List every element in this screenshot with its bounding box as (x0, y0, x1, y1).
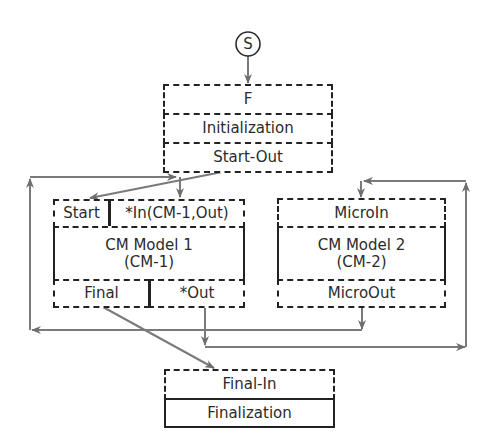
finalization-label: Finalization (207, 405, 292, 422)
cm1-box: Start *In(CM-1,Out) CM Model 1 (CM-1) Fi… (53, 199, 245, 308)
flow-diagram: S F Initialization Start-Out Start *In(C… (0, 0, 497, 448)
final-in-port: Final-In (164, 369, 335, 400)
init-row-f: F (163, 84, 333, 115)
cm2-title-line1: CM Model 2 (318, 237, 406, 254)
cm2-microin-port: MicroIn (277, 198, 446, 228)
init-row-start-out-label: Start-Out (213, 149, 283, 166)
cm1-final-port: Final (53, 279, 150, 308)
start-node-label: S (243, 35, 253, 53)
cm1-out-port: *Out (148, 279, 245, 308)
cm2-box: MicroIn CM Model 2 (CM-2) MicroOut (277, 198, 446, 308)
init-row-initialization: Initialization (163, 113, 333, 144)
cm1-in-port: *In(CM-1,Out) (108, 199, 245, 228)
cm1-out-label: *Out (180, 285, 215, 302)
start-node: S (236, 34, 260, 54)
init-row-f-label: F (244, 91, 253, 108)
cm1-start-label: Start (63, 205, 100, 222)
cm1-start-port: Start (53, 199, 110, 228)
cm1-in-label: *In(CM-1,Out) (125, 205, 228, 222)
cm2-model: CM Model 2 (CM-2) (277, 226, 446, 281)
cm2-microin-label: MicroIn (334, 205, 388, 222)
init-box: F Initialization Start-Out (163, 84, 333, 173)
init-row-start-out: Start-Out (163, 142, 333, 173)
cm2-microout-label: MicroOut (328, 285, 396, 302)
finalization-row: Finalization (164, 398, 335, 428)
final-box: Final-In Finalization (164, 369, 335, 428)
cm1-title-line1: CM Model 1 (105, 237, 193, 254)
final-in-label: Final-In (223, 376, 277, 393)
startout-to-start-arrow (90, 172, 222, 198)
cm2-title-line2: (CM-2) (336, 254, 386, 271)
cm2-microout-port: MicroOut (277, 279, 446, 308)
init-row-initialization-label: Initialization (202, 120, 293, 137)
cm1-final-label: Final (84, 285, 119, 302)
cm1-model: CM Model 1 (CM-1) (53, 226, 245, 281)
final-to-finalin-arrow (103, 307, 214, 368)
cm1-title-line2: (CM-1) (124, 254, 174, 271)
